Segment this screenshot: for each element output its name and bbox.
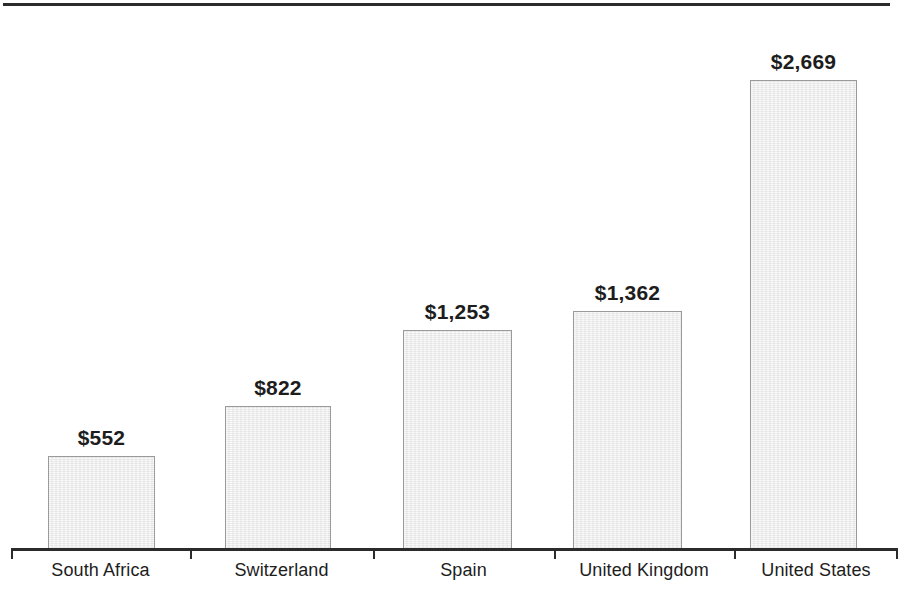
x-axis-line — [11, 548, 898, 551]
bar-rect[interactable] — [573, 311, 682, 550]
x-axis-category-label: South Africa — [11, 560, 190, 581]
x-axis-tick — [734, 551, 736, 559]
x-axis-tick — [554, 551, 556, 559]
bar-value-label: $1,362 — [533, 281, 722, 305]
x-axis-tick — [11, 551, 13, 559]
x-axis-category-label: Switzerland — [190, 560, 373, 581]
bar-group: $2,669 — [750, 80, 857, 550]
x-axis-tick — [373, 551, 375, 559]
bar-value-label: $822 — [185, 376, 371, 400]
bar-group: $552 — [48, 456, 155, 550]
bar-rect[interactable] — [48, 456, 155, 550]
x-axis-category-label: Spain — [373, 560, 554, 581]
bar-rect[interactable] — [403, 330, 512, 550]
x-axis-tick — [896, 551, 898, 559]
bar-value-label: $2,669 — [710, 50, 897, 74]
bar-chart-figure: $552 $822 $1,253 $1,362 $2,669 South Afr… — [0, 0, 911, 606]
bar-group: $1,253 — [403, 330, 512, 550]
plot-area: $552 $822 $1,253 $1,362 $2,669 South Afr… — [0, 0, 911, 606]
bar-group: $1,362 — [573, 311, 682, 550]
bar-group: $822 — [225, 406, 331, 550]
x-axis-category-label: United States — [734, 560, 898, 581]
bar-rect[interactable] — [225, 406, 331, 550]
bar-value-label: $552 — [8, 426, 195, 450]
x-axis-category-label: United Kingdom — [554, 560, 734, 581]
bar-value-label: $1,253 — [363, 300, 552, 324]
x-axis-tick — [190, 551, 192, 559]
bar-rect[interactable] — [750, 80, 857, 550]
